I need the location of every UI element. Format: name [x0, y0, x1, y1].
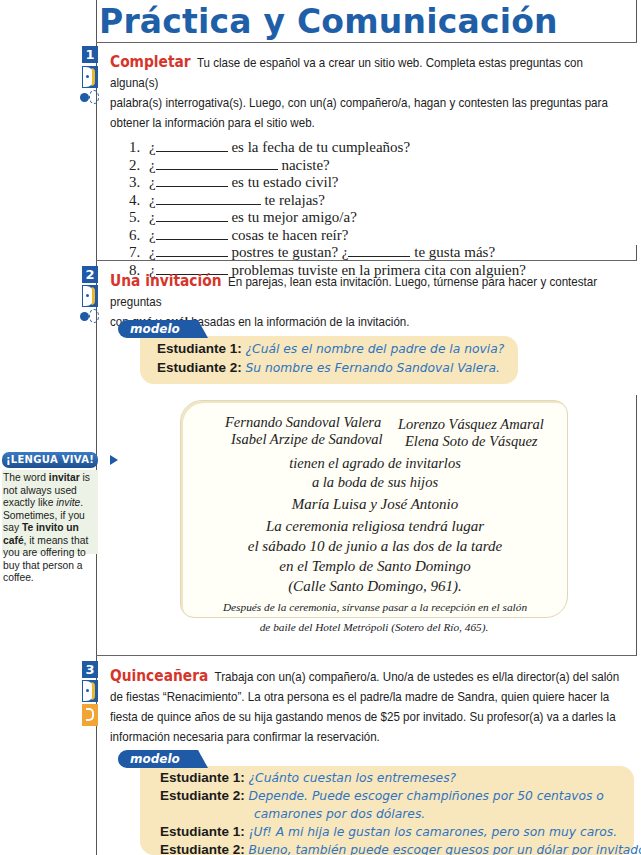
page-left-rule [96, 0, 97, 855]
question-item: 7.¿ postres te gustan? ¿ te gusta más? [129, 244, 526, 262]
question-item: 6.¿ cosas te hacen reír? [129, 227, 526, 245]
modelo-line: camarones por dos dólares. [254, 805, 425, 823]
activity-number: 2 [82, 266, 98, 283]
answer-blank[interactable] [156, 140, 228, 152]
wedding-invitation: Fernando Sandoval Valera Isabel Arzipe d… [180, 400, 568, 618]
activity-divider-2 [96, 655, 637, 656]
answer-blank[interactable] [156, 193, 261, 205]
modelo-line: Estudiante 2: Bueno, también puede escog… [160, 841, 641, 855]
talk-icon [82, 680, 98, 702]
lengua-viva-text: The word invitar is not always used exac… [2, 470, 98, 554]
right-rule [636, 245, 637, 260]
modelo-line: Estudiante 1: ¿Cuál es el nombre del pad… [157, 340, 504, 358]
question-item: 4.¿ te relajas? [129, 192, 526, 210]
arrow-right-icon [110, 455, 118, 465]
question-item: 2.¿ naciste? [129, 157, 526, 175]
right-rule [636, 0, 637, 42]
puzzle-icon [82, 704, 98, 726]
answer-blank[interactable] [156, 245, 228, 257]
answer-blank[interactable] [348, 245, 410, 257]
activity-instructions: Completar Tu clase de español va a crear… [110, 52, 625, 133]
invitation-footer: de baile del Hotel Metrópoli (Sotero del… [180, 621, 568, 633]
right-rule [636, 395, 637, 655]
question-item: 1.¿ es la fecha de tu cumpleaños? [129, 139, 526, 157]
modelo-line: Estudiante 2: Depende. Puede escoger cha… [160, 787, 604, 805]
page-title: Práctica y Comunicación [99, 2, 558, 41]
talk-icon [82, 285, 98, 307]
modelo-line: Estudiante 2: Su nombre es Fernando Sand… [157, 359, 500, 377]
question-item: 5.¿ es tu mejor amigo/a? [129, 209, 526, 227]
modelo-line: Estudiante 1: ¿Cuánto cuestan los entrem… [160, 769, 456, 787]
activity-title: Una invitación [110, 272, 222, 290]
answer-blank[interactable] [156, 210, 228, 222]
modelo-line: Estudiante 1: ¡Uf! A mi hija le gustan l… [160, 823, 617, 841]
question-item: 3.¿ es tu estado civil? [129, 174, 526, 192]
answer-blank[interactable] [156, 175, 228, 187]
activity-number: 3 [82, 661, 98, 678]
modelo-label: modelo [118, 750, 198, 768]
pair-icon [80, 309, 100, 325]
question-list: 1.¿ es la fecha de tu cumpleaños?2.¿ nac… [129, 139, 526, 279]
pair-icon [80, 90, 100, 106]
answer-blank[interactable] [156, 158, 278, 170]
activity-title: Quinceañera [110, 667, 208, 685]
talk-icon [82, 66, 98, 88]
activity-instructions: Quinceañera Trabaja con un(a) compañero/… [110, 666, 625, 747]
title-divider [96, 42, 637, 43]
lengua-viva-badge: ¡LENGUA VIVA! [2, 452, 98, 468]
activity-title: Completar [110, 53, 191, 71]
answer-blank[interactable] [156, 228, 228, 240]
modelo-label: modelo [118, 320, 198, 338]
activity-number: 1 [82, 46, 98, 63]
